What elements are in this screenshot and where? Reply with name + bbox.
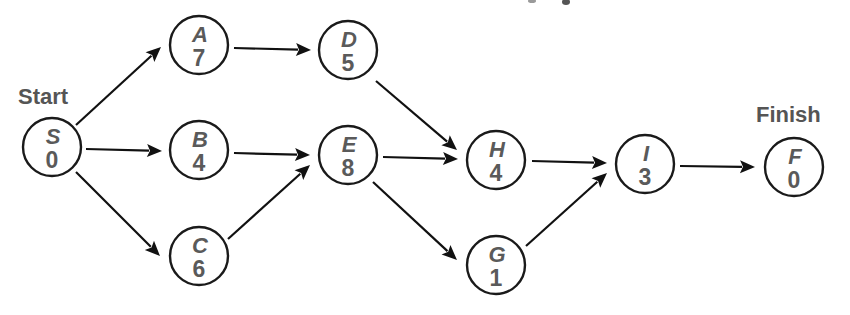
edge-i-to-f (680, 160, 755, 173)
arrowhead-icon (295, 148, 310, 161)
edge-line (234, 48, 298, 50)
finish-label: Finish (756, 102, 821, 127)
arrowhead-icon (147, 144, 162, 157)
start-label: Start (18, 84, 69, 109)
edge-line (376, 81, 447, 142)
top-edge-fragments (528, 0, 570, 5)
edge-s-to-a (76, 47, 161, 125)
edge-c-to-e (228, 165, 310, 239)
edge-g-to-i (526, 173, 607, 246)
node-activity-letter: A (191, 22, 208, 47)
edge-line (373, 182, 447, 251)
edge-b-to-e (234, 148, 310, 161)
edge-s-to-c (76, 172, 160, 256)
arrowhead-icon (740, 160, 755, 173)
node-duration-value: 4 (193, 150, 206, 176)
node-activity-letter: G (488, 242, 505, 267)
node-duration-value: 6 (193, 256, 206, 282)
edge-line (76, 172, 151, 247)
arrowhead-icon (592, 156, 607, 169)
edge-line (526, 182, 597, 246)
node-d: D5 (319, 21, 377, 79)
edge-line (228, 174, 300, 239)
node-duration-value: 0 (788, 167, 801, 193)
edge-line (76, 56, 151, 125)
node-h: H4 (467, 131, 525, 189)
edge-d-to-h (376, 81, 457, 150)
node-activity-letter: H (489, 137, 506, 162)
node-i: I3 (616, 135, 674, 193)
node-b: B4 (170, 121, 228, 179)
edge-h-to-i (532, 156, 607, 169)
node-activity-letter: C (192, 233, 209, 258)
node-duration-value: 1 (490, 265, 503, 291)
node-activity-letter: D (341, 27, 357, 52)
node-duration-value: 5 (342, 50, 355, 76)
node-s: S0 (23, 118, 81, 176)
edge-line (532, 161, 594, 163)
node-activity-letter: F (788, 144, 802, 169)
edge-line (234, 153, 297, 155)
node-activity-letter: B (192, 127, 208, 152)
node-e: E8 (319, 126, 377, 184)
arrowhead-icon (443, 152, 458, 165)
node-g: G1 (467, 236, 525, 294)
nodes-layer: S0A7B4C6D5E8H4G1I3F0 (23, 16, 823, 294)
node-f: F0 (765, 138, 823, 196)
network-diagram: S0A7B4C6D5E8H4G1I3F0 Start Finish (0, 0, 850, 315)
node-duration-value: 3 (639, 164, 652, 190)
edge-line (383, 157, 445, 159)
edge-line (86, 149, 149, 151)
node-duration-value: 7 (193, 45, 206, 71)
node-duration-value: 0 (46, 147, 59, 173)
node-activity-letter: E (342, 132, 358, 157)
arrowhead-icon (296, 43, 311, 56)
edge-s-to-b (86, 144, 162, 157)
edge-e-to-g (373, 182, 457, 260)
node-duration-value: 8 (342, 155, 355, 181)
edge-line (680, 166, 742, 167)
edge-e-to-h (383, 152, 458, 165)
node-c: C6 (170, 227, 228, 285)
node-a: A7 (170, 16, 228, 74)
node-activity-letter: I (643, 141, 650, 166)
node-activity-letter: S (46, 124, 61, 149)
edge-a-to-d (234, 43, 311, 56)
node-duration-value: 4 (490, 160, 503, 186)
